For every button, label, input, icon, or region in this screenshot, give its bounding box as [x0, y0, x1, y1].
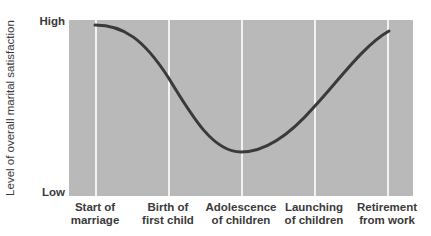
x-tick-retirement: Retirement from work — [342, 201, 431, 227]
plot-area — [69, 20, 413, 196]
satisfaction-curve — [69, 20, 413, 196]
y-tick-high: High — [39, 15, 65, 27]
y-tick-low: Low — [42, 186, 65, 198]
y-axis-label-text: Level of overall marital satisfaction — [4, 20, 16, 196]
y-axis-label: Level of overall marital satisfaction — [0, 20, 20, 196]
